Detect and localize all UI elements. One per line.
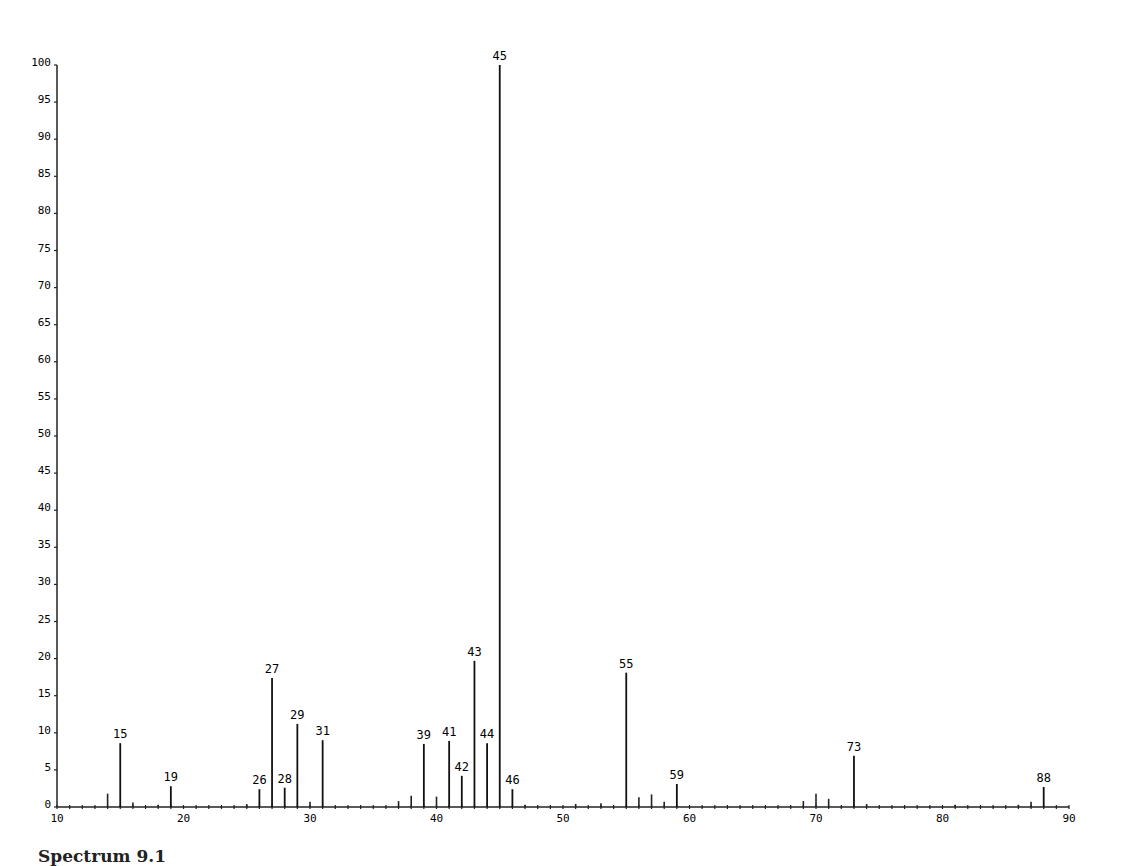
y-tick-label: 85 [38,167,51,180]
peak-label: 29 [290,708,304,722]
labeled-peaks: 151926272829313941424344454655597388 [113,49,1051,807]
y-axis-ticks: 0510152025303540455055606570758085909510… [31,56,57,811]
peak-label: 19 [164,770,178,784]
y-tick-label: 50 [38,427,51,440]
peak-label: 27 [265,662,279,676]
peak-label: 39 [417,728,431,742]
peak-label: 55 [619,657,633,671]
y-tick-label: 55 [38,390,51,403]
y-tick-label: 95 [38,93,51,106]
x-axis-ticks: 102030405060708090 [50,805,1075,825]
axes [57,65,1069,807]
mass-spectrum-chart: 0510152025303540455055606570758085909510… [0,0,1121,840]
y-tick-label: 0 [44,798,51,811]
x-tick-label: 50 [556,812,569,825]
y-tick-label: 25 [38,613,51,626]
peak-label: 88 [1036,771,1050,785]
x-tick-label: 70 [809,812,822,825]
peak-label: 46 [505,773,519,787]
minor-peaks [108,794,1031,807]
peak-label: 41 [442,725,456,739]
y-tick-label: 20 [38,650,51,663]
y-tick-label: 10 [38,724,51,737]
peak-label: 73 [847,740,861,754]
peak-label: 43 [467,645,481,659]
y-tick-label: 80 [38,204,51,217]
x-tick-label: 10 [50,812,63,825]
y-tick-label: 5 [44,761,51,774]
y-tick-label: 35 [38,538,51,551]
peak-label: 15 [113,727,127,741]
peak-label: 45 [493,49,507,63]
y-tick-label: 70 [38,279,51,292]
figure-caption: Spectrum 9.1 [38,846,166,866]
peak-label: 31 [315,724,329,738]
y-tick-label: 45 [38,464,51,477]
x-tick-label: 60 [683,812,696,825]
x-tick-label: 90 [1062,812,1075,825]
peak-label: 42 [455,760,469,774]
y-tick-label: 75 [38,242,51,255]
x-tick-label: 40 [430,812,443,825]
peak-label: 44 [480,727,494,741]
x-tick-label: 80 [936,812,949,825]
y-tick-label: 100 [31,56,51,69]
y-tick-label: 65 [38,316,51,329]
x-tick-label: 20 [177,812,190,825]
y-tick-label: 30 [38,575,51,588]
y-tick-label: 90 [38,130,51,143]
y-tick-label: 60 [38,353,51,366]
y-tick-label: 15 [38,687,51,700]
y-tick-label: 40 [38,501,51,514]
peak-label: 28 [277,772,291,786]
peak-label: 59 [670,768,684,782]
x-tick-label: 30 [303,812,316,825]
peak-label: 26 [252,773,266,787]
